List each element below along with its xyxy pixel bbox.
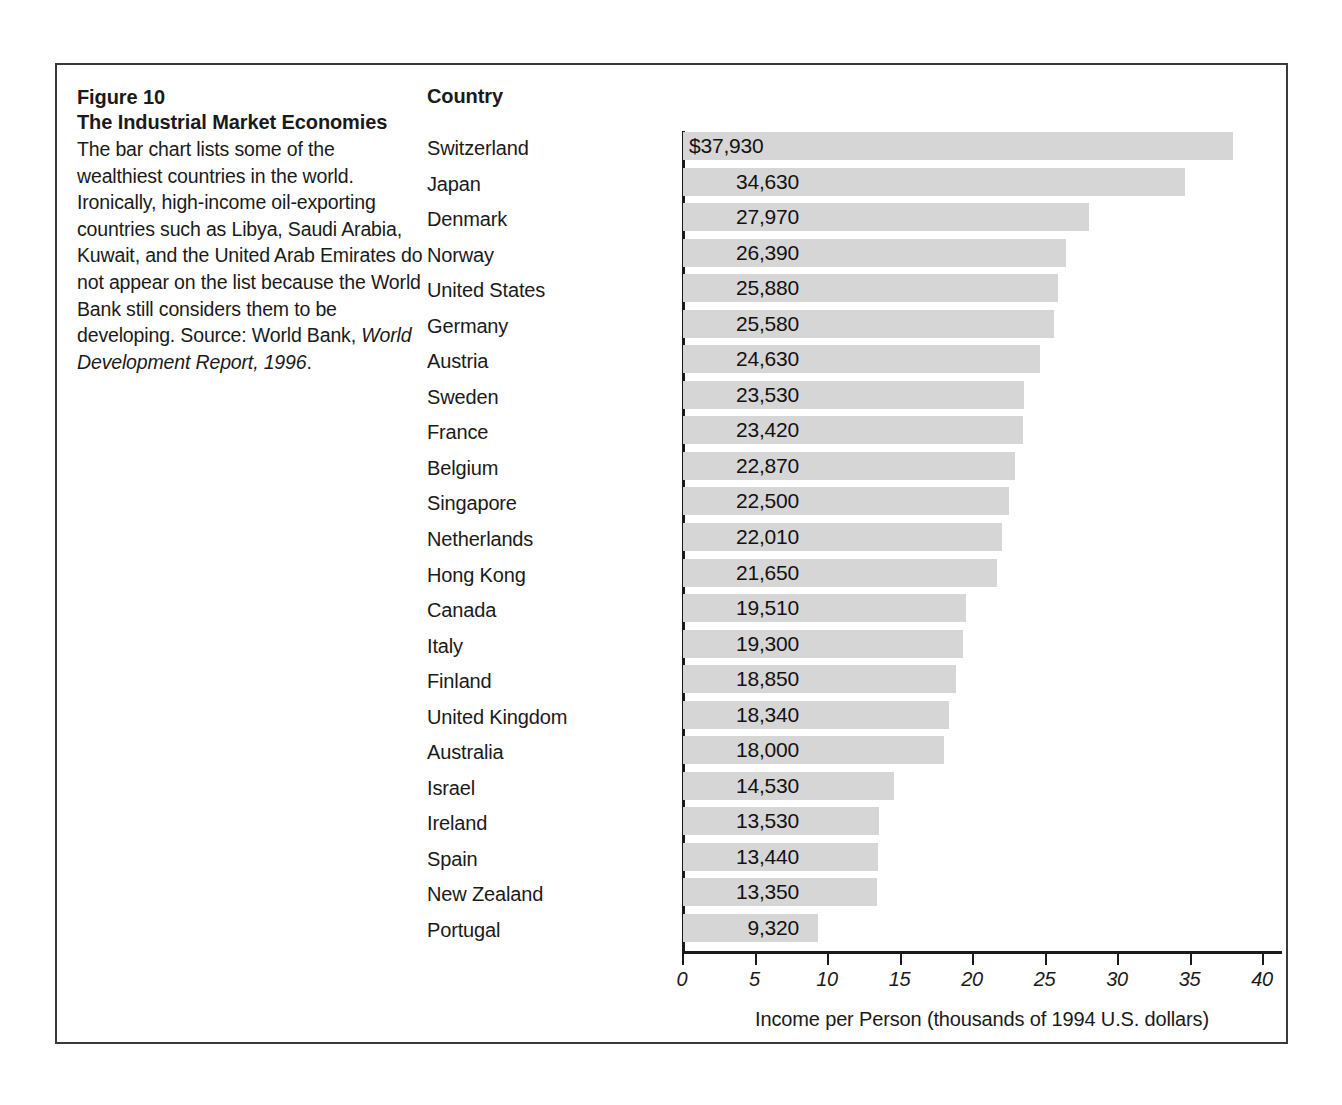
bar-track: 26,390 xyxy=(683,239,1263,267)
country-label: Portugal xyxy=(427,916,619,944)
bar-track: 19,510 xyxy=(683,594,1263,622)
bar-row: Switzerland$37,930 xyxy=(427,131,1272,167)
bar-track: 23,420 xyxy=(683,416,1263,444)
bar-track: 13,440 xyxy=(683,843,1263,871)
country-label: Germany xyxy=(427,312,619,340)
x-axis-tick-label: 35 xyxy=(1179,968,1201,991)
x-axis-tick-label: 15 xyxy=(889,968,911,991)
bar-row: Portugal9,320 xyxy=(427,913,1272,949)
x-axis-tick-mark xyxy=(972,954,974,965)
bar-value-label: 22,870 xyxy=(683,452,799,480)
bar-chart: Country Switzerland$37,930Japan34,630Den… xyxy=(427,85,1272,1025)
figure-number: Figure 10 xyxy=(77,86,165,108)
bar-value-label: 18,850 xyxy=(683,665,799,693)
x-axis-tick-mark xyxy=(1262,954,1264,965)
bar-track: 22,010 xyxy=(683,523,1263,551)
bar-value-label: 21,650 xyxy=(683,559,799,587)
bar-row: Spain13,440 xyxy=(427,842,1272,878)
country-label: Finland xyxy=(427,667,619,695)
bar-value-label: 25,880 xyxy=(683,274,799,302)
bar-value-label: 9,320 xyxy=(683,914,799,942)
figure-caption-text: The bar chart lists some of the wealthie… xyxy=(77,136,425,375)
country-label: Norway xyxy=(427,241,619,269)
column-header-country: Country xyxy=(427,85,503,108)
x-axis-tick-label: 40 xyxy=(1251,968,1273,991)
figure-title: The Industrial Market Economies xyxy=(77,110,425,135)
country-label: Hong Kong xyxy=(427,561,619,589)
bar-value-label: 18,340 xyxy=(683,701,799,729)
bar-value-label: 14,530 xyxy=(683,772,799,800)
x-axis-tick-mark xyxy=(900,954,902,965)
bar-value-label: 23,420 xyxy=(683,416,799,444)
country-label: Sweden xyxy=(427,383,619,411)
bar-value-label: 13,350 xyxy=(683,878,799,906)
bar-row: Netherlands22,010 xyxy=(427,522,1272,558)
caption-tail: . xyxy=(306,351,311,373)
bar-row: Sweden23,530 xyxy=(427,380,1272,416)
x-axis-title: Income per Person (thousands of 1994 U.S… xyxy=(682,1008,1282,1031)
x-axis-tick-label: 10 xyxy=(816,968,838,991)
country-label: Spain xyxy=(427,845,619,873)
x-axis-tick-mark xyxy=(682,954,684,965)
bar-rows-container: Switzerland$37,930Japan34,630Denmark27,9… xyxy=(427,131,1272,949)
bar-row: Ireland13,530 xyxy=(427,806,1272,842)
country-label: Australia xyxy=(427,738,619,766)
bar-value-label: 25,580 xyxy=(683,310,799,338)
country-label: Canada xyxy=(427,596,619,624)
bar-track: 25,880 xyxy=(683,274,1263,302)
x-axis-tick-mark xyxy=(827,954,829,965)
x-axis-tick-label: 30 xyxy=(1106,968,1128,991)
country-label: Netherlands xyxy=(427,525,619,553)
bar-track: 22,500 xyxy=(683,487,1263,515)
bar-track: 34,630 xyxy=(683,168,1263,196)
bar-track: 13,530 xyxy=(683,807,1263,835)
country-label: Israel xyxy=(427,774,619,802)
country-label: Ireland xyxy=(427,809,619,837)
country-label: France xyxy=(427,418,619,446)
x-axis-tick-label: 20 xyxy=(961,968,983,991)
bar-row: France23,420 xyxy=(427,415,1272,451)
bar-row: Australia18,000 xyxy=(427,735,1272,771)
bar-row: Denmark27,970 xyxy=(427,202,1272,238)
bar-track: $37,930 xyxy=(683,132,1263,160)
country-label: Denmark xyxy=(427,205,619,233)
bar-value-label: 22,010 xyxy=(683,523,799,551)
bar-row: United States25,880 xyxy=(427,273,1272,309)
bar-value-label: 24,630 xyxy=(683,345,799,373)
x-axis-tick-label: 0 xyxy=(677,968,688,991)
bar-track: 18,000 xyxy=(683,736,1263,764)
country-label: United Kingdom xyxy=(427,703,619,731)
bar-value-label: 22,500 xyxy=(683,487,799,515)
bar-track: 13,350 xyxy=(683,878,1263,906)
country-label: Japan xyxy=(427,170,619,198)
bar-value-label: 18,000 xyxy=(683,736,799,764)
bar-track: 25,580 xyxy=(683,310,1263,338)
country-label: United States xyxy=(427,276,619,304)
bar-track: 18,850 xyxy=(683,665,1263,693)
country-label: Switzerland xyxy=(427,134,619,162)
bar-row: United Kingdom18,340 xyxy=(427,700,1272,736)
x-axis-tick-mark xyxy=(1045,954,1047,965)
bar-value-label: 26,390 xyxy=(683,239,799,267)
bar-value-label: 23,530 xyxy=(683,381,799,409)
x-axis-tick-label: 25 xyxy=(1034,968,1056,991)
bar-value-label: 13,440 xyxy=(683,843,799,871)
bar-track: 23,530 xyxy=(683,381,1263,409)
bar-row: Finland18,850 xyxy=(427,664,1272,700)
bar-row: Israel14,530 xyxy=(427,771,1272,807)
bar-value-label: 19,300 xyxy=(683,630,799,658)
bar-row: Belgium22,870 xyxy=(427,451,1272,487)
bar-value-label: 13,530 xyxy=(683,807,799,835)
bar-row: Austria24,630 xyxy=(427,344,1272,380)
bar-row: Germany25,580 xyxy=(427,309,1272,345)
bar-track: 21,650 xyxy=(683,559,1263,587)
caption-plain-text: The bar chart lists some of the wealthie… xyxy=(77,138,422,346)
bar-track: 27,970 xyxy=(683,203,1263,231)
bar-row: Singapore22,500 xyxy=(427,486,1272,522)
bar-track: 14,530 xyxy=(683,772,1263,800)
x-axis-tick-mark xyxy=(1117,954,1119,965)
bar-row: Japan34,630 xyxy=(427,167,1272,203)
bar-row: Hong Kong21,650 xyxy=(427,558,1272,594)
country-label: Italy xyxy=(427,632,619,660)
country-label: Austria xyxy=(427,347,619,375)
